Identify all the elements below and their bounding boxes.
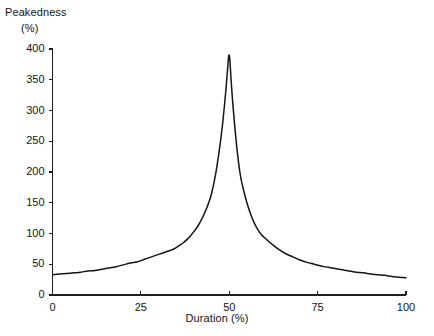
y-tick-label: 300 bbox=[11, 105, 45, 116]
y-tick-label: 150 bbox=[11, 197, 45, 208]
x-tick-label: 25 bbox=[121, 302, 161, 313]
y-axis-tick-marks bbox=[49, 49, 53, 295]
y-tick-label: 50 bbox=[11, 258, 45, 269]
x-tick-label: 100 bbox=[386, 302, 426, 313]
y-tick-label: 0 bbox=[11, 289, 45, 300]
x-tick-label: 50 bbox=[209, 302, 249, 313]
y-tick-label: 250 bbox=[11, 135, 45, 146]
data-series-line bbox=[53, 55, 407, 278]
x-tick-label: 75 bbox=[298, 302, 338, 313]
y-tick-label: 100 bbox=[11, 228, 45, 239]
y-tick-label: 200 bbox=[11, 166, 45, 177]
x-tick-label: 0 bbox=[33, 302, 73, 313]
y-tick-label: 400 bbox=[11, 43, 45, 54]
y-tick-label: 350 bbox=[11, 74, 45, 85]
axis-lines bbox=[53, 49, 407, 295]
x-axis-tick-marks bbox=[53, 291, 407, 295]
chart-container: Peakedness (%) Duration (%) 050100150200… bbox=[0, 0, 434, 336]
plot-area bbox=[0, 0, 434, 336]
